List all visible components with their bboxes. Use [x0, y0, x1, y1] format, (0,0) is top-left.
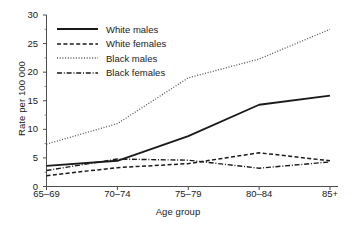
x-axis-label: Age group	[0, 206, 356, 217]
legend-line-swatch	[57, 38, 98, 50]
x-tick-label: 85+	[322, 189, 338, 199]
x-tick-label: 75–79	[175, 189, 201, 199]
legend-item-black-females[interactable]: Black females	[57, 66, 166, 81]
legend-line-swatch	[57, 52, 98, 64]
legend-line-swatch	[57, 23, 98, 35]
legend-label: Black males	[106, 54, 157, 64]
series-line-white-males	[47, 96, 331, 166]
legend-line-swatch	[57, 67, 98, 79]
x-axis-tick-labels: 65–6970–7475–7980–8485+	[0, 189, 356, 205]
x-tick-label: 65–69	[33, 189, 59, 199]
legend-item-white-males[interactable]: White males	[57, 22, 166, 37]
legend-item-black-males[interactable]: Black males	[57, 51, 166, 66]
legend-item-white-females[interactable]: White females	[57, 37, 166, 52]
x-tick-label: 70–74	[104, 189, 130, 199]
legend-label: Black females	[106, 68, 165, 78]
legend-label: White males	[106, 25, 158, 35]
legend-label: White females	[106, 39, 166, 49]
rate-by-age-group-line-chart: Rate per 100 000 051015202530 65–6970–74…	[0, 0, 356, 226]
x-tick-label: 80–84	[246, 189, 272, 199]
series-line-black-females	[47, 159, 331, 170]
chart-legend: White malesWhite femalesBlack malesBlack…	[57, 22, 166, 80]
